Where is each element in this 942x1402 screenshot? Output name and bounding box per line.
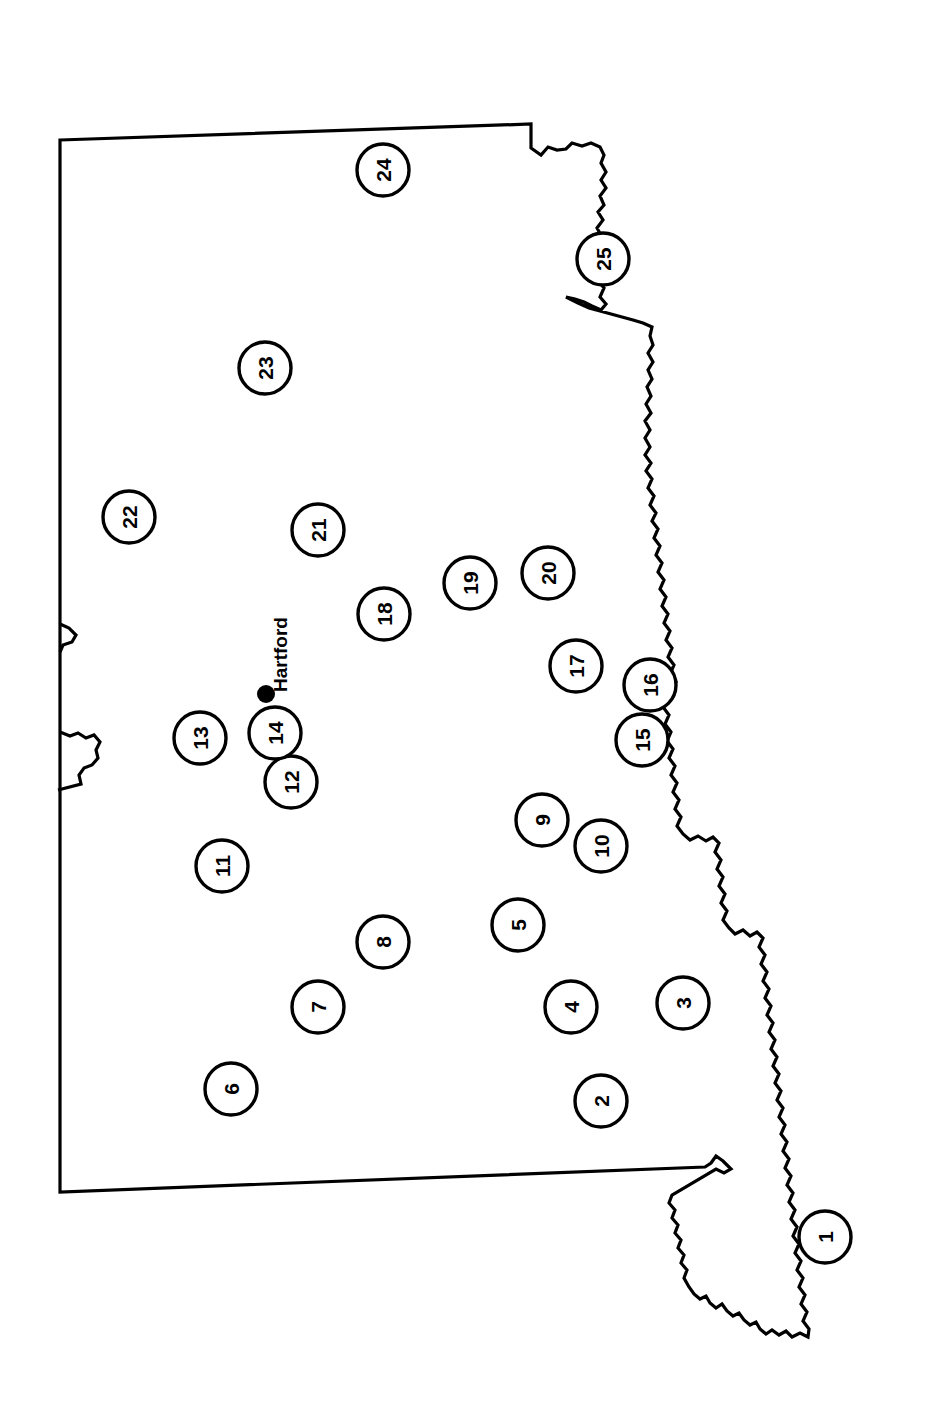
county-marker-label: 21 xyxy=(307,518,330,542)
county-marker-22[interactable]: 22 xyxy=(103,491,155,543)
map-container: 1234567891011121314151617181920212223242… xyxy=(0,0,942,1402)
county-marker-label: 14 xyxy=(264,721,287,745)
county-marker-25[interactable]: 25 xyxy=(577,233,629,285)
county-marker-label: 19 xyxy=(459,571,482,594)
county-marker-21[interactable]: 21 xyxy=(292,504,344,556)
county-marker-label: 20 xyxy=(537,561,560,584)
county-marker-24[interactable]: 24 xyxy=(357,144,409,196)
county-marker-label: 6 xyxy=(220,1083,243,1095)
county-marker-7[interactable]: 7 xyxy=(292,981,344,1033)
county-marker-18[interactable]: 18 xyxy=(358,588,410,640)
state-boundary-group xyxy=(58,124,809,1337)
county-marker-label: 16 xyxy=(639,673,662,696)
city-label: Hartford xyxy=(270,617,291,692)
county-marker-19[interactable]: 19 xyxy=(444,557,496,609)
county-marker-label: 24 xyxy=(372,158,395,182)
county-marker-label: 22 xyxy=(118,505,141,528)
county-marker-16[interactable]: 16 xyxy=(624,659,676,711)
county-marker-14[interactable]: 14 xyxy=(249,707,301,759)
county-marker-label: 11 xyxy=(211,855,234,878)
county-marker-label: 10 xyxy=(590,834,613,857)
county-marker-23[interactable]: 23 xyxy=(239,342,291,394)
county-marker-label: 15 xyxy=(631,728,654,752)
county-marker-label: 9 xyxy=(531,814,554,826)
county-marker-label: 7 xyxy=(307,1001,330,1013)
county-marker-label: 18 xyxy=(373,602,396,626)
county-marker-9[interactable]: 9 xyxy=(516,794,568,846)
county-marker-20[interactable]: 20 xyxy=(522,547,574,599)
county-marker-label: 2 xyxy=(590,1095,613,1107)
county-marker-label: 12 xyxy=(280,770,303,793)
state-outline-path xyxy=(60,124,809,1337)
county-marker-17[interactable]: 17 xyxy=(550,640,602,692)
county-marker-4[interactable]: 4 xyxy=(545,981,597,1033)
county-marker-1[interactable]: 1 xyxy=(799,1211,851,1263)
county-marker-13[interactable]: 13 xyxy=(174,712,226,764)
county-marker-label: 8 xyxy=(372,936,395,948)
county-marker-10[interactable]: 10 xyxy=(575,820,627,872)
county-marker-label: 5 xyxy=(507,919,530,931)
county-marker-label: 17 xyxy=(565,654,588,677)
county-marker-15[interactable]: 15 xyxy=(616,714,668,766)
county-marker-12[interactable]: 12 xyxy=(265,756,317,808)
county-marker-6[interactable]: 6 xyxy=(205,1063,257,1115)
county-marker-11[interactable]: 11 xyxy=(196,840,248,892)
county-marker-label: 1 xyxy=(814,1231,837,1243)
county-marker-label: 23 xyxy=(254,356,277,379)
county-marker-3[interactable]: 3 xyxy=(657,977,709,1029)
county-marker-label: 3 xyxy=(672,997,695,1009)
county-marker-label: 13 xyxy=(189,726,212,749)
county-marker-2[interactable]: 2 xyxy=(575,1075,627,1127)
county-marker-8[interactable]: 8 xyxy=(357,916,409,968)
county-marker-label: 25 xyxy=(592,247,615,271)
county-marker-label: 4 xyxy=(560,1001,583,1013)
map-svg: 1234567891011121314151617181920212223242… xyxy=(0,0,942,1402)
county-marker-5[interactable]: 5 xyxy=(492,899,544,951)
